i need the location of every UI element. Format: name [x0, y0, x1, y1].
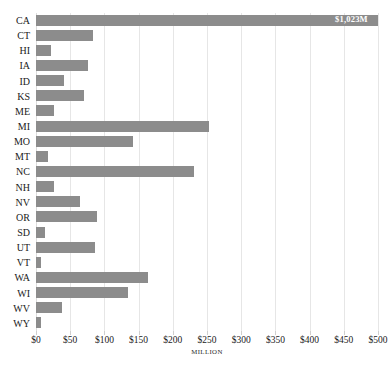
x-tick-label: $350 [266, 335, 285, 345]
bar[interactable] [36, 181, 54, 192]
bar-row[interactable] [36, 28, 378, 43]
x-tick-label: $50 [63, 335, 77, 345]
bar-row[interactable] [36, 301, 378, 316]
bar[interactable] [36, 196, 80, 207]
chart-title [8, 0, 384, 4]
bar-row[interactable]: $1,023M [36, 13, 378, 28]
x-tick-label: $100 [95, 335, 114, 345]
bar[interactable] [36, 302, 62, 313]
y-axis-label: WY [13, 316, 30, 331]
bar-row[interactable] [36, 89, 378, 104]
bar-row[interactable] [36, 316, 378, 331]
x-tick-label: $250 [198, 335, 217, 345]
bar-row[interactable] [36, 180, 378, 195]
y-axis-label: SD [17, 225, 30, 240]
bar-chart: CACTHIIAIDKSMEMIMOMTNCNHNVORSDUTVTWAWIWV… [0, 0, 392, 368]
bar-row[interactable] [36, 74, 378, 89]
bar[interactable] [36, 45, 51, 56]
plot-area: $1,023M [36, 13, 378, 331]
y-axis-label: MO [14, 134, 30, 149]
bar-row[interactable] [36, 195, 378, 210]
bar-row[interactable] [36, 104, 378, 119]
y-axis-label: MT [15, 149, 30, 164]
bar[interactable] [36, 121, 209, 132]
bar-row[interactable] [36, 225, 378, 240]
y-axis-label: IA [19, 58, 30, 73]
bar-row[interactable] [36, 119, 378, 134]
bar-row[interactable] [36, 255, 378, 270]
x-tick-label: $450 [334, 335, 353, 345]
y-axis-label: CT [17, 28, 30, 43]
y-axis-label: KS [17, 89, 30, 104]
bar[interactable] [36, 317, 41, 328]
bar[interactable] [36, 90, 84, 101]
x-tick-label: $200 [163, 335, 182, 345]
bar-row[interactable] [36, 58, 378, 73]
bar[interactable] [36, 75, 64, 86]
bar-row[interactable] [36, 286, 378, 301]
bar-row[interactable] [36, 270, 378, 285]
y-axis-label: UT [17, 240, 30, 255]
y-axis-label: OR [16, 210, 30, 225]
y-axis-label: WA [14, 270, 30, 285]
bar-row[interactable] [36, 134, 378, 149]
bar[interactable] [36, 15, 378, 26]
y-axis-category-labels: CACTHIIAIDKSMEMIMOMTNCNHNVORSDUTVTWAWIWV… [0, 13, 33, 331]
bar[interactable] [36, 211, 97, 222]
y-axis-label: CA [16, 13, 30, 28]
x-tick-label: $300 [232, 335, 251, 345]
bar[interactable] [36, 227, 45, 238]
gridline [378, 13, 379, 331]
y-axis-label: MI [18, 119, 30, 134]
bar-row[interactable] [36, 240, 378, 255]
x-tick-label: $0 [31, 335, 41, 345]
bar[interactable] [36, 151, 48, 162]
y-axis-label: VT [17, 255, 30, 270]
x-axis: $0$50$100$150$200$250MILLION$300$350$400… [36, 331, 378, 353]
x-tick-label: $400 [300, 335, 319, 345]
bar[interactable] [36, 30, 93, 41]
bar-row[interactable] [36, 43, 378, 58]
bar[interactable] [36, 287, 128, 298]
y-axis-label: NC [16, 164, 30, 179]
bar[interactable] [36, 105, 54, 116]
bar-row[interactable] [36, 164, 378, 179]
y-axis-label: NV [16, 195, 30, 210]
bar-rows: $1,023M [36, 13, 378, 331]
bar-value-label: $1,023M [335, 14, 368, 25]
bar[interactable] [36, 136, 133, 147]
y-axis-label: WV [13, 301, 30, 316]
bar[interactable] [36, 60, 88, 71]
y-axis-label: NH [16, 180, 30, 195]
bar[interactable] [36, 257, 41, 268]
bar[interactable] [36, 242, 95, 253]
bar[interactable] [36, 166, 194, 177]
y-axis-label: ID [19, 74, 30, 89]
x-tick-label: $150 [129, 335, 148, 345]
x-axis-unit-label: MILLION [191, 348, 223, 355]
bar-row[interactable] [36, 149, 378, 164]
bar[interactable] [36, 272, 148, 283]
bar-row[interactable] [36, 210, 378, 225]
x-tick-label: $500 [369, 335, 388, 345]
y-axis-label: HI [19, 43, 30, 58]
y-axis-label: ME [15, 104, 30, 119]
y-axis-label: WI [17, 286, 30, 301]
